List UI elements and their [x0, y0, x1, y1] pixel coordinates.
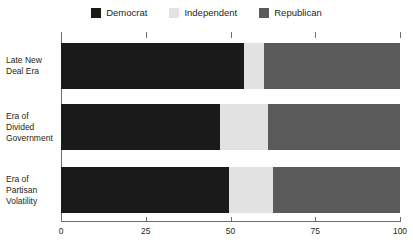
bar-segment-independent — [229, 167, 273, 213]
stacked-bar-chart: Democrat Independent Republican Late New… — [0, 0, 413, 244]
legend-swatch-democrat — [91, 8, 101, 18]
legend-label-republican: Republican — [274, 8, 322, 18]
x-tick-label: 75 — [311, 226, 320, 236]
x-tick-mark — [315, 217, 316, 222]
bar-segment-republican — [273, 167, 400, 213]
bar-row — [61, 167, 400, 213]
bar-segment-democrat — [61, 167, 229, 213]
bar-segment-democrat — [61, 43, 244, 89]
bar-segment-democrat — [61, 104, 220, 150]
x-tick-mark — [61, 32, 62, 38]
legend-item-republican: Republican — [259, 8, 322, 18]
bar-segment-independent — [244, 43, 264, 89]
legend-label-independent: Independent — [184, 8, 237, 18]
x-tick-mark — [231, 217, 232, 222]
bar-segment-independent — [220, 104, 267, 150]
x-tick-mark — [146, 32, 147, 38]
bar-row — [61, 104, 400, 150]
x-tick-label: 100 — [393, 226, 407, 236]
category-label: Era ofPartisanVolatility — [6, 174, 58, 207]
x-tick-mark — [400, 217, 401, 222]
x-tick-mark — [400, 32, 401, 38]
x-tick-mark — [61, 217, 62, 222]
bar-segment-republican — [268, 104, 400, 150]
x-tick-mark — [146, 217, 147, 222]
legend-item-democrat: Democrat — [91, 8, 147, 18]
legend-item-independent: Independent — [169, 8, 237, 18]
plot-area — [61, 32, 400, 222]
x-tick-label: 50 — [226, 226, 235, 236]
x-tick-label: 0 — [59, 226, 64, 236]
x-tick-label: 25 — [141, 226, 150, 236]
bar-segment-republican — [264, 43, 400, 89]
chart-legend: Democrat Independent Republican — [0, 8, 413, 18]
legend-swatch-republican — [259, 8, 269, 18]
category-label: Era ofDividedGovernment — [6, 111, 58, 144]
category-label: Late NewDeal Era — [6, 55, 58, 77]
legend-swatch-independent — [169, 8, 179, 18]
bar-row — [61, 43, 400, 89]
legend-label-democrat: Democrat — [106, 8, 147, 18]
x-tick-mark — [231, 32, 232, 38]
x-tick-mark — [315, 32, 316, 38]
